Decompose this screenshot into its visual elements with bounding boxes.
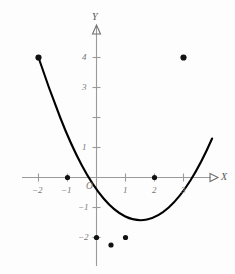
- x-axis-label: X: [221, 172, 227, 182]
- y-axis-label: Y: [92, 12, 98, 22]
- origin-label: O: [86, 182, 93, 191]
- parabola-curve: [39, 58, 213, 221]
- point-root-2: [152, 175, 157, 180]
- parabola-figure: −2 −1 1 2 3 4 3 1 −1 −2 O X Y: [0, 0, 235, 274]
- point-right-endpoint: [180, 54, 186, 60]
- point-vertex: [108, 242, 113, 247]
- point-left-endpoint: [35, 54, 41, 60]
- y-tick-label-neg1: −1: [78, 203, 89, 212]
- x-tick-label-3: 3: [181, 186, 186, 195]
- x-tick-label-neg1: −1: [61, 186, 72, 195]
- x-tick-label-neg2: −2: [32, 186, 43, 195]
- y-tick-label-1: 1: [82, 143, 87, 152]
- x-tick-label-1: 1: [123, 186, 128, 195]
- y-tick-label-4: 4: [82, 53, 87, 62]
- y-tick-label-neg2: −2: [78, 233, 89, 242]
- x-tick-label-2: 2: [152, 186, 157, 195]
- y-tick-label-3: 3: [82, 83, 87, 92]
- coordinate-plane: [0, 0, 235, 274]
- point-x1: [123, 235, 128, 240]
- point-y-intercept: [94, 235, 99, 240]
- point-root-neg1: [65, 175, 70, 180]
- x-axis-arrowhead: [210, 174, 218, 182]
- curve-marked-points: [35, 54, 186, 247]
